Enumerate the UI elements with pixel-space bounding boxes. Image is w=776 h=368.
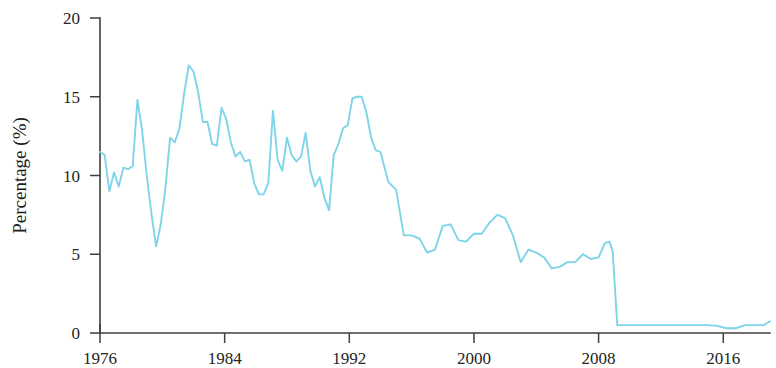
y-tick-label: 20 <box>63 9 80 28</box>
x-tick-label: 2000 <box>457 349 491 368</box>
y-tick-label: 10 <box>63 167 80 186</box>
x-tick-label: 1992 <box>332 349 366 368</box>
y-axis: 05101520 <box>63 9 100 343</box>
x-tick-label: 2008 <box>582 349 616 368</box>
y-axis-title: Percentage (%) <box>9 117 31 234</box>
series-line-0 <box>100 65 770 328</box>
x-tick-label: 1976 <box>83 349 117 368</box>
x-tick-label: 2016 <box>706 349 740 368</box>
data-series-group <box>100 65 770 328</box>
x-tick-label: 1984 <box>208 349 243 368</box>
y-tick-label: 15 <box>63 88 80 107</box>
y-tick-label: 5 <box>72 245 81 264</box>
line-chart: 05101520 197619841992200020082016 Percen… <box>0 0 776 368</box>
chart-figure: 05101520 197619841992200020082016 Percen… <box>0 0 776 368</box>
y-tick-label: 0 <box>72 324 81 343</box>
axis-titles: Percentage (%) <box>9 117 31 234</box>
x-axis: 197619841992200020082016 <box>83 324 770 368</box>
